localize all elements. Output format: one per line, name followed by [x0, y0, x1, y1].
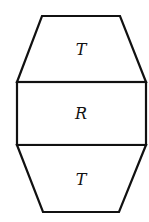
- bottom-trapezoid: T: [17, 145, 146, 212]
- middle-rectangle: R: [17, 82, 146, 145]
- bottom-trapezoid-label: T: [76, 170, 88, 189]
- stacked-shapes-diagram: T R T: [0, 0, 149, 222]
- middle-rectangle-label: R: [74, 104, 87, 123]
- top-trapezoid-label: T: [76, 40, 88, 59]
- top-trapezoid: T: [17, 16, 146, 82]
